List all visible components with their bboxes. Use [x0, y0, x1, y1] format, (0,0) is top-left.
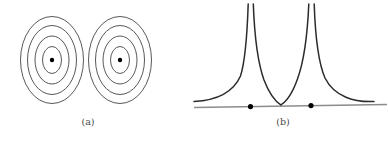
- contour-center-dot-right: [118, 58, 122, 62]
- caption-panel-b: (b): [276, 116, 290, 127]
- figure-background: [0, 0, 388, 142]
- figure-container: (a) (b): [0, 0, 388, 142]
- figure-canvas: (a) (b): [0, 0, 388, 142]
- contour-center-dot-left: [50, 58, 54, 62]
- pole-dot-right: [308, 103, 313, 108]
- pole-dot-left: [248, 104, 253, 109]
- caption-panel-a: (a): [81, 116, 94, 127]
